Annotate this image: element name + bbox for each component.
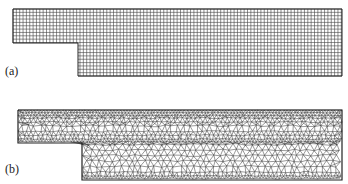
panel-b-label: (b) bbox=[5, 162, 19, 177]
unstructured-tri-mesh bbox=[18, 110, 342, 180]
mesh-figure bbox=[0, 0, 348, 184]
structured-quad-mesh bbox=[13, 9, 342, 76]
panel-a-label: (a) bbox=[5, 64, 18, 79]
